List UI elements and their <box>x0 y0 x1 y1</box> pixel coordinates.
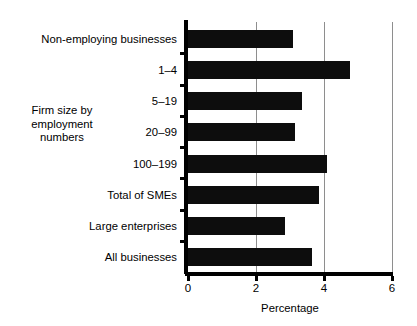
bar <box>188 30 293 48</box>
y-axis-tick <box>180 84 185 87</box>
category-label: 1–4 <box>158 61 177 79</box>
bar <box>188 248 312 266</box>
x-axis-tick-2 <box>255 276 258 281</box>
category-label: Total of SMEs <box>107 186 177 204</box>
y-axis-tick <box>180 52 185 55</box>
plot-area <box>188 22 392 272</box>
x-axis-tick-0 <box>187 276 190 281</box>
category-label: 20–99 <box>146 123 177 141</box>
x-axis-tick-label: 4 <box>309 282 339 294</box>
category-label-list: Non-employing businesses1–45–1920–99100–… <box>0 22 184 272</box>
x-axis-title: Percentage <box>188 302 392 314</box>
x-axis-tick-4 <box>323 276 326 281</box>
x-axis-tick-label: 2 <box>241 282 271 294</box>
gridline-6 <box>392 22 393 272</box>
x-axis-line <box>185 272 393 276</box>
bar <box>188 217 285 235</box>
bar <box>188 186 319 204</box>
category-label: 5–19 <box>152 92 177 110</box>
bar <box>188 92 302 110</box>
y-axis-tick <box>180 115 185 118</box>
y-axis-tick <box>180 177 185 180</box>
bar-chart: Firm size by employment numbers Non-empl… <box>0 0 417 326</box>
gridline-4 <box>324 22 325 272</box>
category-label: Non-employing businesses <box>41 30 177 48</box>
category-label: Large enterprises <box>89 217 177 235</box>
x-axis-tick-label: 6 <box>377 282 407 294</box>
bar <box>188 61 350 79</box>
x-axis-tick-6 <box>391 276 394 281</box>
category-label: 100–199 <box>133 155 177 173</box>
x-axis-tick-label: 0 <box>173 282 203 294</box>
bar <box>188 123 295 141</box>
category-label: All businesses <box>105 248 177 266</box>
y-axis-tick <box>180 146 185 149</box>
bar <box>188 155 327 173</box>
y-axis-tick <box>180 240 185 243</box>
y-axis-tick <box>180 209 185 212</box>
